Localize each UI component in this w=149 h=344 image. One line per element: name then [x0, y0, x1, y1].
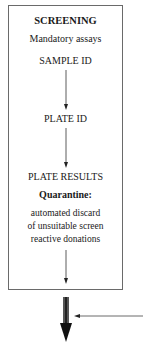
arrow-sample-to-plate-icon: [64, 70, 68, 110]
arrows-layer: [0, 0, 149, 344]
horizontal-input-arrow-icon: [74, 314, 143, 318]
thick-output-arrow-icon: [60, 297, 72, 342]
arrow-quarantine-exit-icon: [64, 250, 68, 284]
arrow-plate-to-results-icon: [64, 128, 68, 168]
